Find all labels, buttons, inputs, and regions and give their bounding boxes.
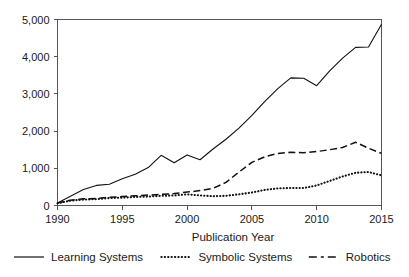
y-tick-label: 5,000: [22, 14, 50, 26]
x-axis-title: Publication Year: [192, 231, 275, 243]
x-tick-label: 1990: [45, 213, 69, 225]
series-line-symbolic-systems: [58, 172, 382, 203]
y-tick-label: 1,000: [22, 162, 50, 174]
y-tick-label: 4,000: [22, 51, 50, 63]
line-chart: 01,0002,0003,0004,0005,000 1990199520002…: [0, 0, 409, 277]
plot-frame: [58, 20, 382, 206]
x-tick-label: 2010: [304, 213, 328, 225]
x-tick-label: 2015: [369, 213, 393, 225]
x-tick-label: 2005: [240, 213, 264, 225]
x-tick-label: 1995: [110, 213, 134, 225]
chart-legend: Learning SystemsSymbolic SystemsRobotics: [14, 251, 391, 263]
series-line-learning-systems: [58, 24, 382, 203]
y-tick-label: 3,000: [22, 88, 50, 100]
chart-canvas: 01,0002,0003,0004,0005,000 1990199520002…: [0, 0, 409, 277]
legend-label-symbolic-systems: Symbolic Systems: [198, 251, 292, 263]
y-tick-label: 2,000: [22, 125, 50, 137]
x-tick-label: 2000: [175, 213, 199, 225]
series-line-robotics: [58, 142, 382, 203]
y-tick-label: 0: [43, 200, 49, 212]
series-layer: [58, 24, 382, 203]
x-axis: 199019952000200520102015: [45, 206, 393, 225]
y-axis: 01,0002,0003,0004,0005,000: [22, 14, 58, 212]
legend-label-learning-systems: Learning Systems: [51, 251, 143, 263]
legend-label-robotics: Robotics: [346, 251, 391, 263]
